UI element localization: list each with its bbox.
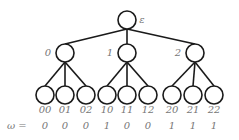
leaf-label: 01 [59,104,72,115]
leaf-label: 20 [165,104,179,115]
leaf-node [184,86,202,104]
leaf-node [163,86,181,104]
leaf-node [98,86,116,104]
ternary-tree-diagram: ε012000010020101110120201211221ω = [0,0,239,140]
leaf-node [118,86,136,104]
leaf-node [139,86,157,104]
root-label: ε [139,14,144,25]
leaf-label: 12 [142,104,155,115]
tree-edge [65,62,86,86]
leaf-label: 11 [121,104,134,115]
omega-value: 0 [42,120,49,131]
tree-edge [195,62,214,86]
root-node [118,11,136,29]
omega-prefix-label: ω = [7,120,27,131]
leaf-label: 21 [186,104,200,115]
tree-edge [127,62,148,86]
omega-value: 1 [211,120,217,131]
leaf-label: 10 [101,104,114,115]
level1-label: 2 [174,47,181,58]
omega-value: 1 [104,120,110,131]
tree-edge [172,62,195,86]
tree-edge [65,29,127,44]
level1-node [118,44,136,62]
level1-label: 1 [107,47,113,58]
level1-node [56,44,74,62]
omega-value: 1 [169,120,175,131]
omega-value: 1 [190,120,196,131]
level1-node [186,44,204,62]
tree-edge [107,62,127,86]
level1-label: 0 [45,47,52,58]
tree-edge [45,62,65,86]
leaf-label: 22 [207,104,221,115]
tree-nodes [36,11,223,104]
leaf-node [205,86,223,104]
omega-value: 0 [83,120,90,131]
leaf-node [36,86,54,104]
leaf-label: 02 [80,104,93,115]
tree-edge [127,29,195,44]
tree-edge [193,62,195,86]
leaf-node [56,86,74,104]
omega-value: 0 [145,120,152,131]
omega-value: 0 [124,120,131,131]
leaf-label: 00 [39,104,52,115]
leaf-node [77,86,95,104]
omega-value: 0 [62,120,69,131]
